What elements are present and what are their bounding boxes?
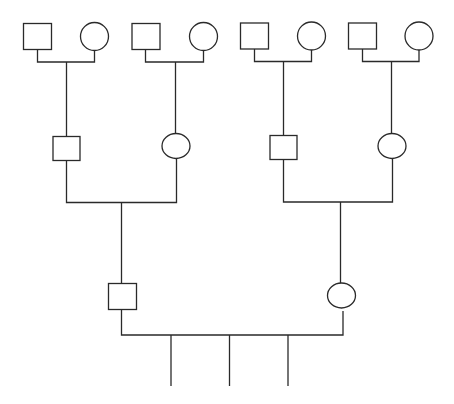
children — [171, 335, 288, 386]
male-symbol — [132, 24, 160, 50]
marriage-line — [122, 310, 344, 336]
couple-7 — [109, 283, 356, 335]
couple-5 — [53, 134, 190, 284]
couple-1 — [24, 23, 109, 137]
male-symbol — [241, 23, 269, 49]
marriage-line — [146, 50, 204, 63]
female-symbol — [405, 22, 433, 50]
couple-3 — [241, 22, 326, 135]
female-symbol — [81, 23, 109, 51]
marriage-line — [284, 159, 393, 203]
couple-2 — [132, 23, 218, 134]
female-symbol — [328, 283, 356, 308]
couple-6 — [270, 134, 406, 284]
female-symbol — [190, 23, 218, 51]
female-symbol — [378, 134, 406, 159]
male-symbol — [270, 136, 297, 160]
male-symbol — [24, 24, 52, 50]
marriage-line — [255, 49, 312, 62]
marriage-line — [38, 50, 95, 63]
couple-4 — [349, 22, 434, 133]
male-symbol — [53, 137, 80, 161]
pedigree-diagram — [0, 0, 454, 404]
female-symbol — [298, 22, 326, 50]
female-symbol — [162, 134, 190, 159]
marriage-line — [67, 159, 177, 203]
marriage-line — [363, 49, 420, 62]
male-symbol — [349, 23, 377, 49]
male-symbol — [109, 284, 137, 310]
